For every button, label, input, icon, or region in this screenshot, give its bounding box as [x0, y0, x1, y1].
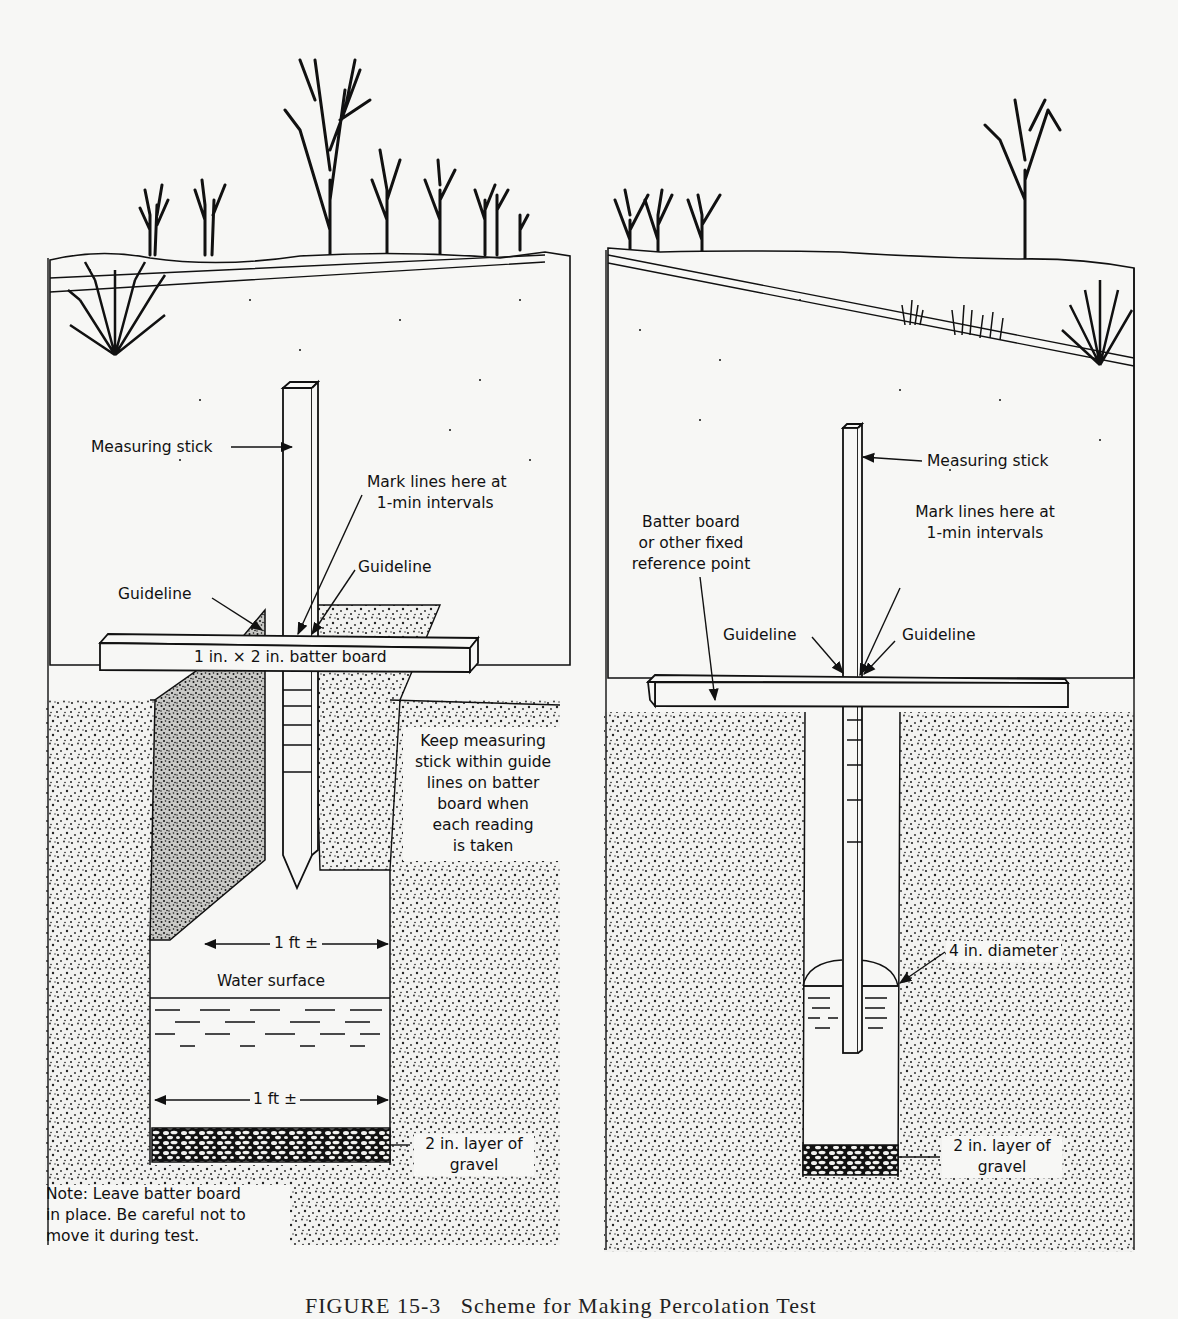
ground-surface — [608, 248, 1134, 678]
measuring-stick — [843, 424, 862, 1053]
label-measuring-stick-left: Measuring stick — [91, 437, 213, 458]
measuring-stick — [283, 382, 318, 888]
label-guideline-right-right-panel: Guideline — [902, 625, 976, 646]
label-diameter: 4 in. diameter — [946, 941, 1061, 962]
label-mark-lines-left: Mark lines here at 1-min intervals — [367, 472, 507, 514]
label-guideline-right-left-panel: Guideline — [358, 557, 432, 578]
figure-caption: FIGURE 15-3 Scheme for Making Percolatio… — [305, 1293, 817, 1319]
label-gravel-left: 2 in. layer of gravel — [414, 1134, 534, 1176]
label-water-surface: Water surface — [217, 971, 325, 992]
gravel-layer — [803, 1145, 898, 1175]
label-gravel-right: 2 in. layer of gravel — [942, 1136, 1062, 1178]
label-measuring-stick-right: Measuring stick — [927, 451, 1049, 472]
label-keep-stick-instruction: Keep measuring stick within guide lines … — [403, 727, 563, 861]
tree-icon — [140, 60, 528, 285]
batter-board — [648, 675, 1068, 707]
label-batter-board-reference: Batter board or other fixed reference po… — [616, 512, 766, 575]
label-mark-lines-right: Mark lines here at 1-min intervals — [900, 502, 1070, 544]
label-guideline-left-left-panel: Guideline — [118, 584, 192, 605]
label-width-bottom: 1 ft ± — [250, 1089, 300, 1110]
label-batter-board-left: 1 in. × 2 in. batter board — [194, 647, 387, 668]
gravel-layer — [152, 1128, 390, 1162]
right-panel — [604, 100, 1134, 1252]
label-guideline-left-right-panel: Guideline — [723, 625, 797, 646]
label-width-top: 1 ft ± — [271, 933, 321, 954]
label-note: Note: Leave batter board in place. Be ca… — [46, 1184, 246, 1247]
